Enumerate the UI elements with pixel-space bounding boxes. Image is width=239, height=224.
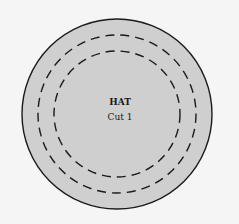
hat-pattern-diagram: HAT Cut 1: [0, 0, 239, 224]
piece-title: HAT: [109, 97, 131, 107]
piece-subtitle: Cut 1: [108, 112, 133, 122]
